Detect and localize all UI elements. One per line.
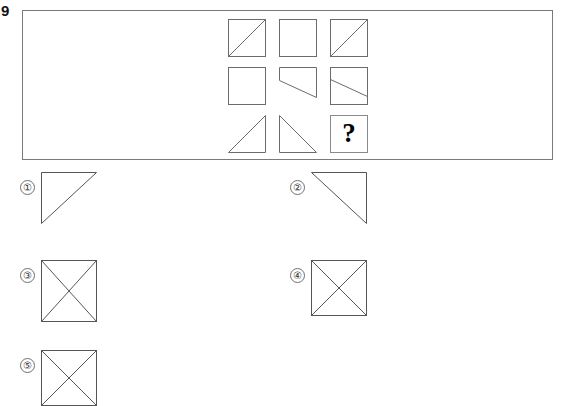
matrix-cell-r2c3: [330, 67, 368, 105]
answer-option-1-badge: ①: [20, 180, 35, 195]
answer-option-1-figure: [41, 172, 97, 224]
square-with-slanted-line-icon: [330, 67, 368, 105]
matrix-cell-r3c2: [279, 115, 317, 153]
right-triangle-icon: [41, 172, 97, 224]
stimulus-panel: ?: [22, 10, 553, 160]
square-with-diagonals-icon: [41, 260, 97, 322]
square-with-diagonal-icon: [330, 19, 368, 57]
answer-option-3-figure: [41, 260, 97, 322]
right-triangle-icon: [279, 115, 317, 153]
answer-option-5-figure: [41, 350, 97, 406]
matrix-cell-r2c2: [279, 67, 317, 105]
square-with-diagonals-icon: [311, 260, 367, 316]
matrix-cell-r2c1: [228, 67, 266, 105]
answer-option-4-badge: ④: [290, 268, 305, 283]
square-with-diagonals-icon: [41, 350, 97, 406]
matrix-cell-r1c2: [279, 19, 317, 57]
matrix-cell-r3c3-question: ?: [330, 115, 368, 153]
plain-square-icon: [279, 19, 317, 57]
right-triangle-icon: [311, 172, 367, 224]
question-number: 9: [1, 3, 9, 18]
matrix-cell-r1c1: [228, 19, 266, 57]
answer-option-4-figure: [311, 260, 367, 316]
answer-option-2-figure: [311, 172, 367, 224]
question-mark-text: ?: [342, 120, 356, 147]
matrix-grid: ?: [228, 19, 370, 153]
plain-square-icon: [228, 67, 266, 105]
answer-option-2-badge: ②: [290, 180, 305, 195]
matrix-cell-r3c1: [228, 115, 266, 153]
right-triangle-icon: [228, 115, 266, 153]
trapezoid-icon: [279, 67, 317, 105]
answer-option-5-badge: ⑤: [20, 358, 35, 373]
answer-option-3-badge: ③: [20, 268, 35, 283]
matrix-cell-r1c3: [330, 19, 368, 57]
square-with-diagonal-icon: [228, 19, 266, 57]
